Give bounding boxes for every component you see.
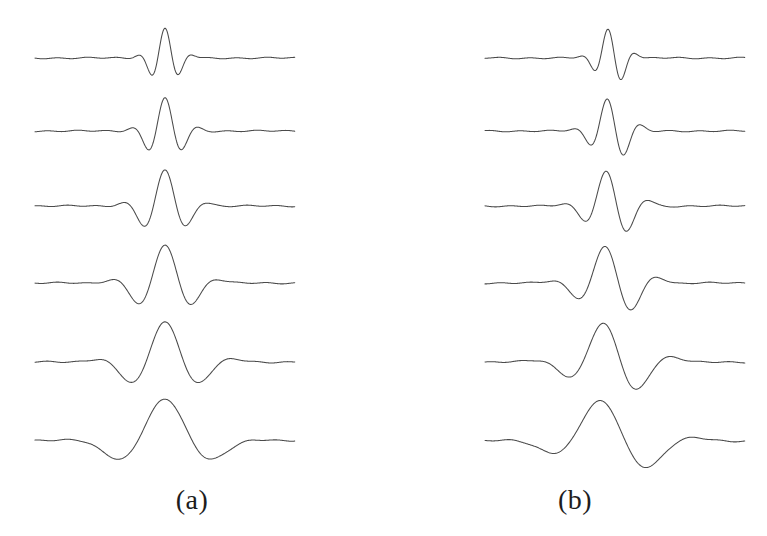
panel-b: (b) xyxy=(383,0,767,536)
wavelet-trace-a-4 xyxy=(35,245,295,304)
wavelet-trace-b-3 xyxy=(485,171,745,231)
wavelet-trace-a-6 xyxy=(35,399,295,459)
panel-b-label: (b) xyxy=(383,484,767,516)
wavelet-trace-a-3 xyxy=(35,170,295,226)
trace-group-b xyxy=(383,0,767,492)
wavelet-trace-b-4 xyxy=(485,246,745,309)
panel-a: (a) xyxy=(0,0,384,536)
wavelet-figure: (a) (b) xyxy=(0,0,767,536)
trace-group-a xyxy=(0,0,384,492)
wavelet-trace-a-1 xyxy=(35,28,295,75)
wavelet-trace-a-5 xyxy=(35,322,295,383)
panel-a-label: (a) xyxy=(0,484,384,516)
trace-stack-b xyxy=(383,0,767,492)
wavelet-trace-b-2 xyxy=(485,99,745,155)
wavelet-trace-b-5 xyxy=(485,323,745,389)
wavelet-trace-b-1 xyxy=(485,29,745,79)
trace-stack-a xyxy=(0,0,384,492)
wavelet-trace-a-2 xyxy=(35,98,295,150)
wavelet-trace-b-6 xyxy=(485,401,745,468)
